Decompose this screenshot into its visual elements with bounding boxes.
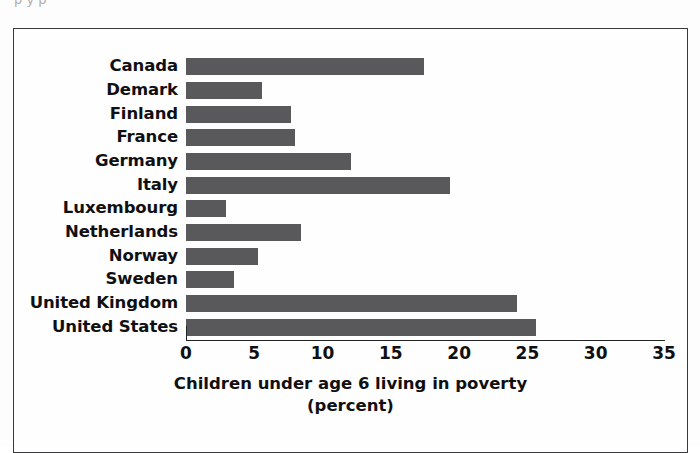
bar-row [186, 319, 664, 336]
bar-row [186, 58, 664, 75]
x-axis-tick-label: 5 [248, 343, 260, 363]
category-label: Norway [109, 246, 178, 265]
bar [186, 200, 226, 217]
bar [186, 177, 450, 194]
category-label: France [116, 127, 178, 146]
bar-row [186, 271, 664, 288]
y-axis-line [186, 326, 187, 341]
category-label: Italy [137, 175, 178, 194]
bar [186, 295, 517, 312]
bar [186, 106, 291, 123]
category-label: Demark [106, 80, 178, 99]
bar-row [186, 248, 664, 265]
x-axis-tick-label: 10 [311, 343, 335, 363]
x-axis-tick-label: 25 [516, 343, 540, 363]
scan-top-text: p y p [14, 0, 274, 6]
bar [186, 319, 536, 336]
bar-row [186, 177, 664, 194]
bar [186, 224, 301, 241]
x-axis-title-line2: (percent) [14, 395, 687, 417]
x-axis-tick-label: 15 [379, 343, 403, 363]
x-axis-tick-label: 35 [652, 343, 676, 363]
bar [186, 271, 234, 288]
bar-row [186, 153, 664, 170]
x-axis-tick-label: 30 [584, 343, 608, 363]
x-axis-line [186, 340, 665, 341]
category-label: United States [52, 317, 178, 336]
x-axis-tick-label: 0 [180, 343, 192, 363]
category-label: Canada [110, 56, 178, 75]
bar [186, 153, 351, 170]
x-axis-tick-label: 20 [447, 343, 471, 363]
bar-row [186, 295, 664, 312]
bar [186, 129, 295, 146]
category-label: Luxembourg [63, 198, 178, 217]
plot-area [186, 55, 664, 339]
category-label: Germany [95, 151, 178, 170]
bar [186, 248, 258, 265]
scan-top-text-sliver: p y p [14, 0, 274, 9]
category-label: Sweden [106, 269, 178, 288]
chart-figure-frame: Children under age 6 living in poverty (… [13, 28, 688, 453]
x-axis-title: Children under age 6 living in poverty (… [14, 373, 687, 417]
bar-row [186, 224, 664, 241]
bar-row [186, 200, 664, 217]
bar-row [186, 82, 664, 99]
bar-row [186, 106, 664, 123]
category-label: Finland [110, 104, 178, 123]
bar [186, 82, 262, 99]
category-label: United Kingdom [30, 293, 178, 312]
bar-row [186, 129, 664, 146]
category-label: Netherlands [65, 222, 178, 241]
bar [186, 58, 424, 75]
x-axis-title-line1: Children under age 6 living in poverty [174, 374, 527, 393]
